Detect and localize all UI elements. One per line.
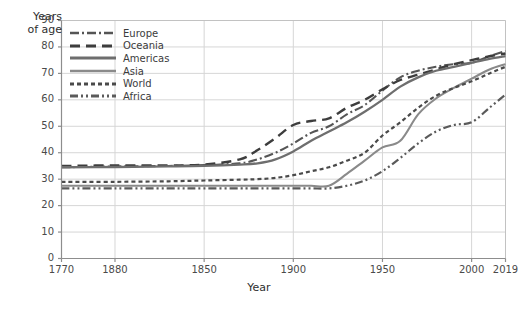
legend-item-americas[interactable]: Americas — [70, 52, 169, 65]
x-tick-label: 1850 — [191, 264, 216, 275]
legend-item-world[interactable]: World — [70, 77, 169, 90]
x-tick-label: 2000 — [459, 264, 484, 275]
line-chart: Years of age 0102030405060708090 1770188… — [0, 0, 518, 309]
legend-swatch-world — [70, 79, 116, 89]
legend-label: Europe — [123, 28, 158, 39]
x-tick-label: 1880 — [102, 264, 127, 275]
y-tick-label: 90 — [28, 14, 54, 25]
x-tick-label: 1900 — [281, 264, 306, 275]
y-tick-label: 50 — [28, 120, 54, 131]
legend-swatch-africa — [70, 91, 116, 101]
x-axis-title: Year — [0, 281, 518, 294]
x-tick-label: 1770 — [49, 264, 74, 275]
y-tick-label: 70 — [28, 67, 54, 78]
x-tick-label: 1950 — [370, 264, 395, 275]
y-tick-label: 20 — [28, 199, 54, 210]
legend-swatch-europe — [70, 28, 116, 38]
legend-item-oceania[interactable]: Oceania — [70, 40, 169, 53]
legend-label: Asia — [123, 66, 144, 77]
legend-label: Americas — [123, 53, 169, 64]
legend-item-europe[interactable]: Europe — [70, 27, 169, 40]
y-tick-label: 10 — [28, 226, 54, 237]
y-tick-label: 40 — [28, 146, 54, 157]
x-tick-label: 2019 — [493, 264, 518, 275]
chart-legend: EuropeOceaniaAmericasAsiaWorldAfrica — [70, 27, 169, 103]
legend-item-asia[interactable]: Asia — [70, 65, 169, 78]
legend-swatch-oceania — [70, 41, 116, 51]
y-tick-label: 0 — [28, 252, 54, 263]
legend-label: Oceania — [123, 40, 164, 51]
legend-swatch-asia — [70, 66, 116, 76]
y-tick-label: 60 — [28, 93, 54, 104]
legend-swatch-americas — [70, 53, 116, 63]
legend-label: World — [123, 78, 152, 89]
y-tick-label: 80 — [28, 40, 54, 51]
y-tick-label: 30 — [28, 173, 54, 184]
series-line-africa — [62, 95, 506, 189]
legend-item-africa[interactable]: Africa — [70, 90, 169, 103]
legend-label: Africa — [123, 91, 152, 102]
